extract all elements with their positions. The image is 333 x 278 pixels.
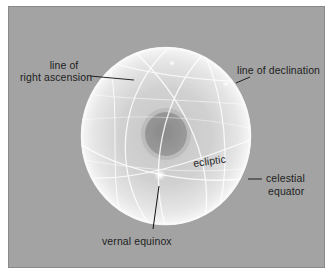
- earth: [145, 112, 187, 156]
- celestial-equator-label-line1: celestial: [266, 172, 305, 184]
- declination-leader: [236, 77, 250, 83]
- right-ascension-label-line2: right ascension: [20, 71, 92, 83]
- declination-label: line of declination: [237, 64, 320, 76]
- right-ascension-label: line of: [34, 59, 94, 71]
- celestial-equator-label-line2: equator: [268, 185, 304, 197]
- right-ascension-label-line1: line of: [34, 59, 94, 71]
- vernal-equinox-label: vernal equinox: [102, 235, 172, 247]
